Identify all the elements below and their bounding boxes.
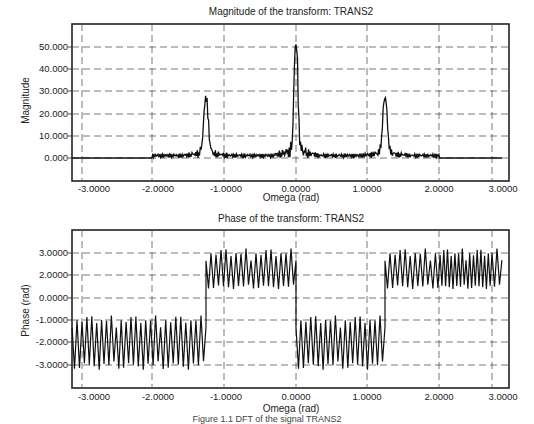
phase-x-tick: -3.0000 bbox=[78, 391, 110, 402]
mag-x-tick: -2.0000 bbox=[142, 183, 174, 194]
magnitude-plot bbox=[68, 24, 509, 181]
phase-x-tick: -1.0000 bbox=[210, 391, 242, 402]
mag-y-tick: 10.000 bbox=[8, 130, 68, 141]
mag-y-tick: 20.000 bbox=[8, 108, 68, 119]
mag-x-tick: 0.0000 bbox=[281, 183, 310, 194]
phase-y-tick: 0.0000 bbox=[8, 292, 68, 303]
magnitude-chart-title: Magnitude of the transform: TRANS2 bbox=[209, 6, 373, 17]
phase-y-tick: -3.0000 bbox=[8, 359, 68, 370]
phase-y-tick: -2.0000 bbox=[8, 336, 68, 347]
mag-x-tick: 1.0000 bbox=[352, 183, 381, 194]
phase-y-tick: 2.0000 bbox=[8, 269, 68, 280]
mag-y-tick: 50.000 bbox=[8, 41, 68, 52]
phase-x-tick: 3.0000 bbox=[488, 391, 517, 402]
phase-x-tick: 2.0000 bbox=[424, 391, 453, 402]
figure-caption: Figure 1.1 DFT of the signal TRANS2 bbox=[192, 414, 341, 424]
phase-y-tick: -1.0000 bbox=[8, 314, 68, 325]
magnitude-y-axis-label: Magnitude bbox=[20, 66, 31, 136]
mag-x-tick: -1.0000 bbox=[210, 183, 242, 194]
mag-y-tick: 40.000 bbox=[8, 63, 68, 74]
phase-y-tick: 3.0000 bbox=[8, 247, 68, 258]
mag-x-tick: -3.0000 bbox=[78, 183, 110, 194]
phase-chart-title: Phase of the transform: TRANS2 bbox=[218, 213, 364, 224]
phase-x-tick: 1.0000 bbox=[352, 391, 381, 402]
mag-x-tick: 2.0000 bbox=[424, 183, 453, 194]
phase-plot bbox=[68, 230, 509, 388]
phase-x-tick: -2.0000 bbox=[142, 391, 174, 402]
mag-y-tick: 30.000 bbox=[8, 85, 68, 96]
mag-y-tick: 0.000 bbox=[8, 152, 68, 163]
phase-x-tick: 0.0000 bbox=[281, 391, 310, 402]
phase-x-axis-label: Omega (rad) bbox=[263, 403, 320, 414]
phase-y-axis-label: Phase (rad) bbox=[20, 276, 31, 346]
mag-x-tick: 3.0000 bbox=[488, 183, 517, 194]
